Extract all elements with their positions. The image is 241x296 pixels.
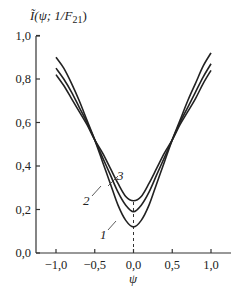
x-tick-label: 0,5 <box>164 258 180 272</box>
x-tick-label: 1,0 <box>203 258 219 272</box>
curve-1-label: 1 <box>100 227 107 242</box>
y-axis-title: Ĩ(ψ; 1/F21) <box>29 8 87 25</box>
curve-series-2 <box>56 64 211 212</box>
x-tick-label: −1,0 <box>45 258 68 272</box>
x-tick-label: −0,5 <box>83 258 106 272</box>
curve-3-label: 3 <box>116 168 124 183</box>
y-tick-label: 1,0 <box>15 29 31 43</box>
x-axis-title: ψ <box>129 271 138 286</box>
curve-2-label: 2 <box>83 193 90 208</box>
curve-label-1: 1 <box>100 221 116 242</box>
y-tick-label: 0,0 <box>15 246 31 260</box>
curve-series-3 <box>56 70 211 201</box>
chart: Ĩ(ψ; 1/F21) 0,00,20,40,60,81,0 −1,0−0,50… <box>0 0 241 296</box>
curve-label-2: 2 <box>83 186 101 208</box>
curves <box>56 53 211 227</box>
y-tick-label: 0,4 <box>15 159 31 173</box>
y-tick-label: 0,8 <box>15 72 31 86</box>
y-tick-label: 0,6 <box>15 116 31 130</box>
x-tick-label: 0,0 <box>126 258 142 272</box>
y-tick-label: 0,2 <box>15 203 31 217</box>
